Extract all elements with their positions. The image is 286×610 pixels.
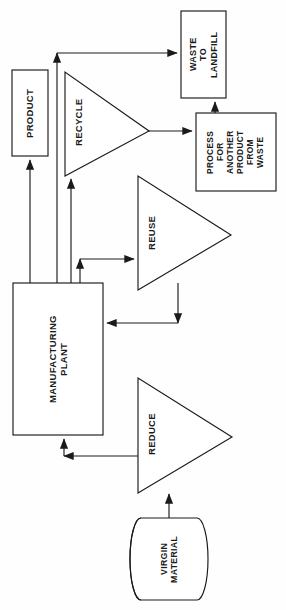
- node-virgin-material: [130, 518, 208, 600]
- node-product: [12, 70, 48, 156]
- flow-diagram: PRODUCT WASTE TO LANDFILL PROCESS FOR AN…: [0, 0, 286, 610]
- node-process-another-product: [196, 113, 276, 191]
- node-reuse: [138, 176, 231, 290]
- node-waste-to-landfill: [181, 11, 226, 98]
- node-manufacturing-plant: [13, 283, 103, 435]
- node-recycle: [65, 72, 149, 176]
- diagram-canvas: [0, 0, 286, 610]
- node-reduce: [138, 378, 232, 493]
